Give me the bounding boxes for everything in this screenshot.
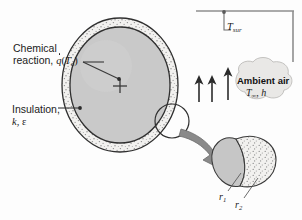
chemical-reaction-label-line1: Chemical [13,42,57,54]
emissivity-symbol: ε [22,116,26,127]
chemical-reaction-label-line2: reaction, [13,54,56,66]
magnified-wall-inset [212,136,276,198]
insulation-label: Insulation, k, ε [12,103,60,129]
volumetric-generation-symbol: q [56,55,61,67]
convection-arrows [199,80,212,102]
heat-transfer-figure: Chemical reaction, q(To) Insulation, k, … [0,0,302,220]
ambient-air-symbols: T∞, h [246,87,266,100]
inner-radius-label: r1 [219,191,226,204]
surroundings-boundary [196,10,294,62]
surroundings-temperature-subscript: sur [233,26,242,33]
outer-radius-subscript: 2 [239,204,242,211]
convection-coefficient-symbol: h [261,87,266,98]
ambient-air-title: Ambient air [237,75,289,86]
paren-close: ) [74,55,78,66]
chemical-reaction-label: Chemical reaction, q(To) [13,42,78,68]
inner-radius-subscript: 1 [223,196,226,203]
outer-radius-label: r2 [235,199,242,212]
insulation-label-line1: Insulation, [12,103,60,115]
surroundings-temperature-label: Tsur [227,20,242,34]
